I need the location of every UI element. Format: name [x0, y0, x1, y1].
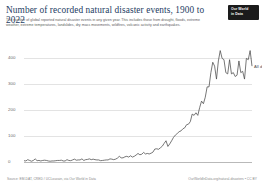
source-note: Source: EM-DAT, CRED / UCLouvain, via Ou…	[7, 177, 96, 181]
our-world-in-data-logo[interactable]: Our World in Data	[228, 5, 259, 20]
plot-area: 0100200300400 All disasters 190019201940…	[0, 40, 262, 165]
chart-subtitle: The number of global reported natural di…	[6, 18, 213, 28]
series-end-label-all-disasters: All disasters	[254, 64, 262, 69]
series-line-all-disasters	[24, 51, 252, 162]
logo-line-2: in Data	[231, 12, 257, 17]
chart-root: Number of recorded natural disaster even…	[0, 0, 262, 194]
license-note[interactable]: OurWorldInData.org/natural-disasters • C…	[188, 177, 257, 181]
line-series-svg	[0, 40, 262, 165]
